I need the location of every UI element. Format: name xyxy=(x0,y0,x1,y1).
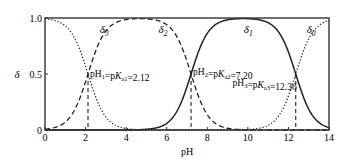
y-tick-label: 1.0 xyxy=(30,13,43,24)
series-labels: δ3δ2δ1δ0 xyxy=(100,23,316,38)
x-tick-label: 6 xyxy=(164,132,169,143)
x-tick-label: 12 xyxy=(283,132,293,143)
y-tick-label: 0.5 xyxy=(30,69,43,80)
x-tick-label: 14 xyxy=(324,132,334,143)
series-label-δ0: δ0 xyxy=(307,23,316,38)
series-label-δ2: δ2 xyxy=(159,23,168,38)
pka-reference-lines xyxy=(88,74,296,130)
x-tick-label: 8 xyxy=(205,132,210,143)
x-tick-label: 4 xyxy=(124,132,129,143)
series-label-δ1: δ1 xyxy=(244,23,253,38)
pka-annotation: pH3=pKa3=12.36 xyxy=(233,78,297,92)
distribution-chart: 02468101214 00.51.0 δ3δ2δ1δ0 pH1=pKa1=2.… xyxy=(0,0,346,165)
x-axis-label: pH xyxy=(181,146,193,157)
x-tick-label: 2 xyxy=(83,132,88,143)
x-tick-label: 0 xyxy=(43,132,48,143)
series-label-δ3: δ3 xyxy=(100,23,109,38)
x-tick-label: 10 xyxy=(243,132,253,143)
pka-annotations: pH1=pKa1=2.12pH2=pKa2=7.20pH3=pKa3=12.36 xyxy=(90,67,297,92)
y-axis-label: δ xyxy=(14,68,20,80)
pka-annotation: pH1=pKa1=2.12 xyxy=(90,69,150,83)
y-tick-label: 0 xyxy=(37,125,42,136)
